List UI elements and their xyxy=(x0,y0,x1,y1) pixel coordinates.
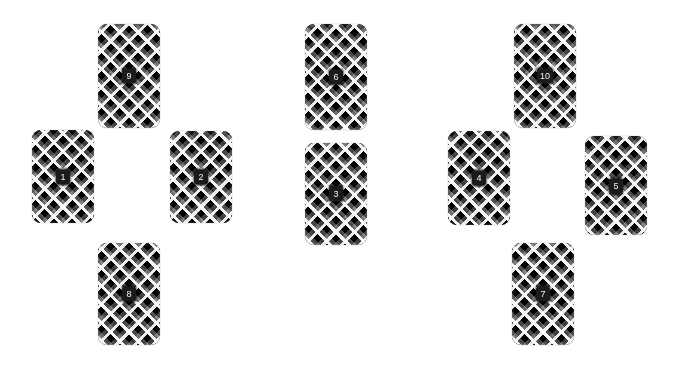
card-canvas: 91286310457 xyxy=(0,0,678,373)
card-number-badge: 4 xyxy=(472,171,486,186)
card-4[interactable]: 4 xyxy=(448,131,510,225)
group-right: 10457 xyxy=(0,0,678,373)
card-5[interactable]: 5 xyxy=(585,136,647,235)
card-number-badge: 7 xyxy=(536,287,550,302)
card-7[interactable]: 7 xyxy=(512,243,574,345)
card-number-badge: 10 xyxy=(537,69,553,84)
card-10[interactable]: 10 xyxy=(514,24,576,128)
card-number-badge: 5 xyxy=(609,178,623,193)
